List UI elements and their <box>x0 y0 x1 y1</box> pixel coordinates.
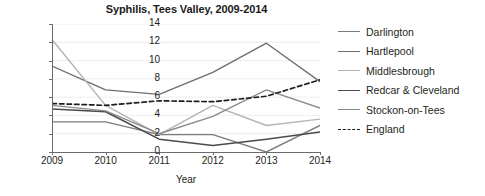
legend-label-darlington: Darlington <box>366 26 414 38</box>
legend-item-hartlepool[interactable]: Hartlepool <box>338 42 485 62</box>
legend-swatch-darlington <box>338 31 360 32</box>
chart-figure: Syphilis, Tees Valley, 2009-2014 Rate pe… <box>0 0 485 196</box>
series-line-middlesbrough <box>52 40 320 135</box>
y-tick-label: 2 <box>126 127 160 138</box>
legend-item-england[interactable]: England <box>338 120 485 140</box>
y-tick-label: 6 <box>126 90 160 101</box>
y-tick-label: 8 <box>126 72 160 83</box>
x-tick-label: 2014 <box>300 155 340 166</box>
legend-label-middlesbrough: Middlesbrough <box>366 65 435 77</box>
series-line-redcar-cleveland <box>52 109 320 146</box>
legend-item-darlington[interactable]: Darlington <box>338 22 485 42</box>
plot-area <box>52 24 320 152</box>
legend-label-stockon-on-tees: Stockon-on-Tees <box>366 104 445 116</box>
legend-label-hartlepool: Hartlepool <box>366 45 414 57</box>
y-tick-label: 12 <box>126 35 160 46</box>
legend-item-redcar-cleveland[interactable]: Redcar & Cleveland <box>338 81 485 101</box>
series-line-hartlepool <box>52 43 320 94</box>
chart-title: Syphilis, Tees Valley, 2009-2014 <box>44 3 329 15</box>
y-tick-label: 10 <box>126 54 160 65</box>
x-tick-label: 2009 <box>32 155 72 166</box>
legend-swatch-hartlepool <box>338 51 360 52</box>
x-tick-label: 2010 <box>86 155 126 166</box>
x-tick-label: 2013 <box>246 155 286 166</box>
legend-item-stockon-on-tees[interactable]: Stockon-on-Tees <box>338 100 485 120</box>
chart-legend: DarlingtonHartlepoolMiddlesbroughRedcar … <box>338 22 485 139</box>
legend-label-redcar-cleveland: Redcar & Cleveland <box>366 84 459 96</box>
x-tick-label: 2011 <box>139 155 179 166</box>
legend-label-england: England <box>366 123 405 135</box>
legend-swatch-redcar-cleveland <box>338 90 360 91</box>
series-layer <box>52 24 320 152</box>
legend-swatch-middlesbrough <box>338 70 360 71</box>
y-tick-label: 14 <box>126 17 160 28</box>
x-tick-label: 2012 <box>193 155 233 166</box>
y-tick-label: 4 <box>126 108 160 119</box>
legend-swatch-stockon-on-tees <box>338 109 360 110</box>
legend-item-middlesbrough[interactable]: Middlesbrough <box>338 61 485 81</box>
x-axis-title: Year <box>52 174 320 185</box>
legend-swatch-england <box>338 129 360 130</box>
